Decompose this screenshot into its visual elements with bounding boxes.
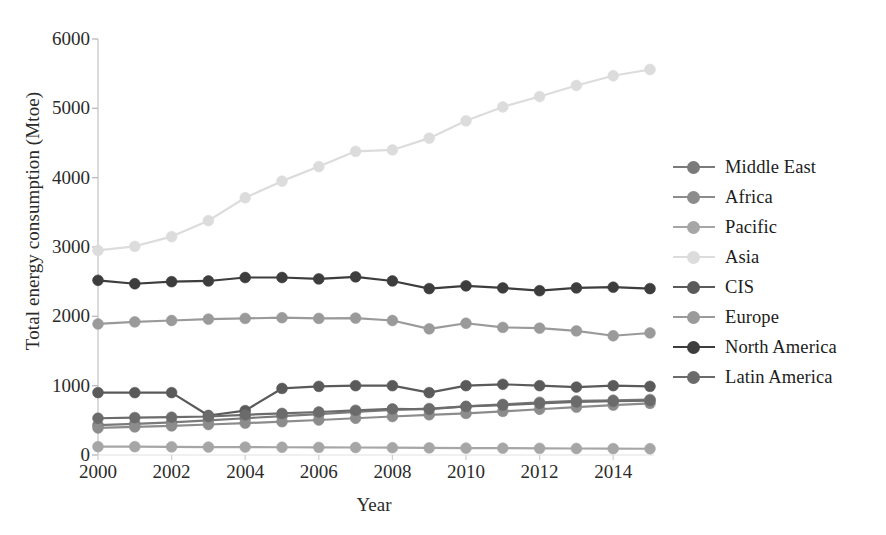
legend-item-cis[interactable]: CIS: [673, 272, 883, 302]
data-point: [277, 408, 288, 419]
data-point: [571, 397, 582, 408]
data-point: [387, 315, 398, 326]
data-point: [203, 215, 214, 226]
data-point: [203, 442, 214, 453]
data-point: [645, 328, 656, 339]
data-point: [166, 387, 177, 398]
data-series-group: [93, 64, 656, 454]
data-point: [387, 380, 398, 391]
data-point: [645, 443, 656, 454]
data-point: [645, 395, 656, 406]
data-point: [571, 283, 582, 294]
legend-marker-icon: [673, 190, 715, 204]
data-point: [350, 380, 361, 391]
data-point: [129, 441, 140, 452]
data-point: [497, 379, 508, 390]
data-point: [129, 316, 140, 327]
legend-item-north-america[interactable]: North America: [673, 332, 883, 362]
legend-dot-swatch: [687, 281, 700, 294]
data-point: [424, 387, 435, 398]
data-point: [203, 411, 214, 422]
data-point: [534, 323, 545, 334]
data-point: [461, 401, 472, 412]
data-point: [93, 441, 104, 452]
legend-item-label: Asia: [725, 247, 759, 268]
data-point: [571, 325, 582, 336]
axes: [92, 39, 654, 460]
data-point: [534, 285, 545, 296]
data-point: [277, 312, 288, 323]
data-point: [203, 314, 214, 325]
data-point: [240, 272, 251, 283]
data-point: [93, 245, 104, 256]
legend-item-pacific[interactable]: Pacific: [673, 212, 883, 242]
data-point: [608, 70, 619, 81]
data-point: [313, 273, 324, 284]
x-tick-label: 2000: [79, 461, 117, 483]
data-point: [240, 409, 251, 420]
legend-dot-swatch: [687, 371, 700, 384]
data-point: [608, 330, 619, 341]
chart-figure: 0100020003000400050006000 20002002200420…: [0, 0, 886, 535]
legend-item-label: Africa: [725, 187, 773, 208]
data-point: [313, 407, 324, 418]
x-axis-title: Year: [98, 494, 650, 516]
legend-item-label: Middle East: [725, 157, 816, 178]
data-point: [387, 276, 398, 287]
data-point: [534, 443, 545, 454]
data-point: [203, 276, 214, 287]
legend-marker-icon: [673, 160, 715, 174]
legend-item-label: Pacific: [725, 217, 777, 238]
data-point: [461, 115, 472, 126]
data-point: [424, 283, 435, 294]
x-axis-tick-labels: 20002002200420062008201020122014: [0, 461, 886, 491]
data-point: [461, 443, 472, 454]
data-point: [461, 280, 472, 291]
data-point: [424, 404, 435, 415]
legend-dot-swatch: [687, 161, 700, 174]
data-point: [277, 272, 288, 283]
data-point: [350, 271, 361, 282]
legend-item-middle-east[interactable]: Middle East: [673, 152, 883, 182]
y-axis-title: Total energy consumption (Mtoe): [22, 11, 44, 431]
data-point: [350, 442, 361, 453]
x-tick-label: 2008: [373, 461, 411, 483]
data-point: [350, 146, 361, 157]
data-point: [497, 443, 508, 454]
legend-item-latin-america[interactable]: Latin America: [673, 362, 883, 392]
data-point: [166, 315, 177, 326]
legend-item-asia[interactable]: Asia: [673, 242, 883, 272]
data-point: [350, 313, 361, 324]
data-point: [645, 283, 656, 294]
legend-item-europe[interactable]: Europe: [673, 302, 883, 332]
data-point: [387, 145, 398, 156]
data-point: [461, 318, 472, 329]
legend-dot-swatch: [687, 221, 700, 234]
data-point: [240, 192, 251, 203]
data-point: [387, 442, 398, 453]
x-tick-label: 2006: [300, 461, 338, 483]
data-point: [608, 380, 619, 391]
data-point: [240, 442, 251, 453]
data-point: [313, 442, 324, 453]
data-point: [166, 276, 177, 287]
data-point: [497, 283, 508, 294]
data-point: [645, 64, 656, 75]
data-point: [313, 381, 324, 392]
legend-marker-icon: [673, 220, 715, 234]
data-point: [534, 398, 545, 409]
legend-item-africa[interactable]: Africa: [673, 182, 883, 212]
x-tick-label: 2012: [521, 461, 559, 483]
data-point: [240, 313, 251, 324]
data-point: [277, 176, 288, 187]
x-tick-label: 2010: [447, 461, 485, 483]
data-point: [166, 412, 177, 423]
legend-item-label: CIS: [725, 277, 754, 298]
data-point: [645, 381, 656, 392]
data-point: [93, 387, 104, 398]
data-point: [608, 396, 619, 407]
legend-item-label: Latin America: [725, 367, 833, 388]
legend-dot-swatch: [687, 311, 700, 324]
data-point: [387, 403, 398, 414]
data-point: [350, 405, 361, 416]
